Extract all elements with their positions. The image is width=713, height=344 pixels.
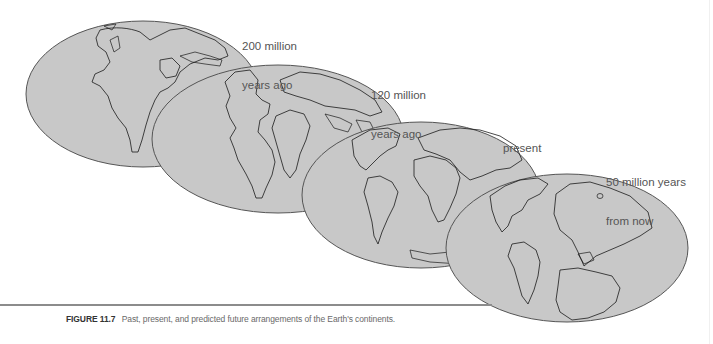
label-line-1: 50 million years [606,176,686,189]
label-line-2: from now [606,215,686,228]
label-200-million-years-ago: 200 million years ago [242,14,297,118]
label-line-1: 200 million [242,40,297,53]
label-line-2: years ago [242,79,297,92]
continental-drift-figure: 200 million years ago 120 million years … [0,0,713,344]
label-120-million-years-ago: 120 million years ago [371,63,426,167]
label-line-2: years ago [371,128,426,141]
label-line-1: 120 million [371,89,426,102]
label-present: present [503,116,541,181]
figure-caption: FIGURE 11.7 Past, present, and predicted… [66,314,395,324]
page-edge-divider [709,0,710,344]
label-line-1: present [503,142,541,155]
caption-text: Past, present, and predicted future arra… [122,314,395,324]
figure-number: FIGURE 11.7 [66,314,115,324]
caption-rule [0,304,492,306]
label-50-million-years-from-now: 50 million years from now [606,150,686,254]
